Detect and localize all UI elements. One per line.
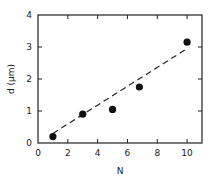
- y-tick-label: 0: [26, 138, 32, 148]
- x-axis-label: N: [117, 166, 124, 176]
- data-point: [136, 83, 143, 90]
- y-tick-label: 1: [26, 106, 32, 116]
- data-point: [183, 39, 190, 46]
- x-tick-label: 6: [125, 148, 131, 158]
- x-tick-label: 4: [95, 148, 101, 158]
- y-tick-label: 2: [26, 74, 32, 84]
- x-tick-label: 2: [65, 148, 71, 158]
- fit-line: [53, 49, 187, 134]
- plot-frame: [38, 15, 202, 143]
- y-tick-label: 3: [26, 42, 32, 52]
- data-point: [49, 133, 56, 140]
- data-points: [49, 39, 190, 141]
- x-tick-label: 0: [35, 148, 41, 158]
- y-tick-label: 4: [26, 10, 32, 20]
- scatter-chart: 024681001234 N d (μm): [0, 0, 215, 182]
- data-point: [109, 106, 116, 113]
- x-tick-label: 10: [181, 148, 193, 158]
- data-point: [79, 111, 86, 118]
- y-axis-label: d (μm): [6, 64, 16, 94]
- x-tick-label: 8: [154, 148, 160, 158]
